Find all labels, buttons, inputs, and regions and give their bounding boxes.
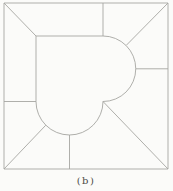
divider-top-left-diagonal (4, 3, 36, 36)
figure-panel: (b) (0, 0, 173, 191)
heart-dissection-diagram (0, 0, 173, 191)
divider-bottom-right-diagonal (103, 102, 168, 170)
divider-top-right-diagonal (126, 3, 168, 45)
divider-bottom-left-diagonal (4, 125, 46, 169)
figure-caption: (b) (4, 174, 168, 188)
